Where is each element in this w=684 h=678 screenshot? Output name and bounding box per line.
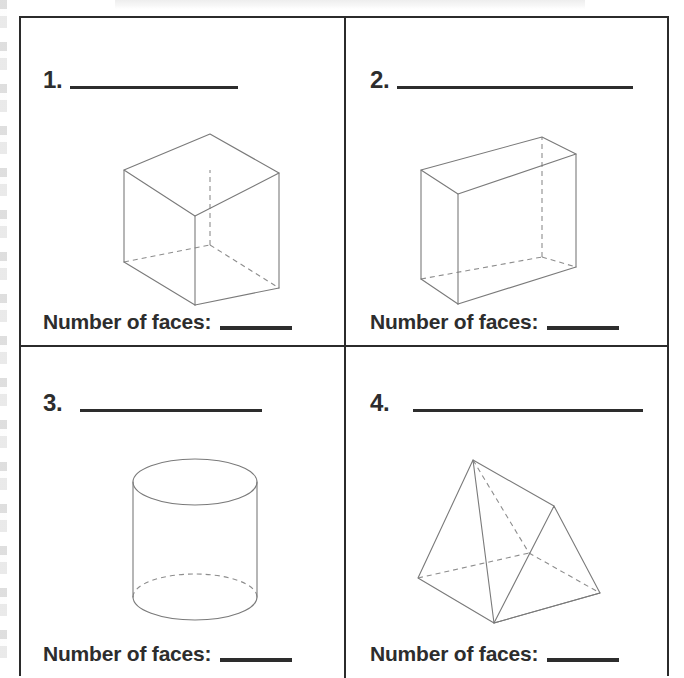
figure-rectangular-prism (404, 126, 614, 306)
question-4-number: 4. (370, 391, 389, 415)
figure-cylinder (117, 451, 297, 631)
question-cell-3: 3. (21, 347, 344, 678)
question-4-footer: Number of faces: (370, 643, 619, 664)
question-cell-1: 1. (21, 18, 344, 345)
scan-top-band-artifact (115, 0, 585, 9)
question-1-footer: Number of faces: (43, 311, 292, 332)
question-cell-2: 2. (344, 18, 667, 345)
question-4-faces-label: Number of faces: (370, 643, 538, 664)
question-4-faces-answer-line[interactable] (547, 658, 619, 662)
question-4-header: 4. (370, 391, 643, 415)
question-2-faces-answer-line[interactable] (547, 326, 619, 330)
question-2-header: 2. (370, 68, 633, 92)
question-4-answer-line[interactable] (413, 409, 643, 412)
question-2-footer: Number of faces: (370, 311, 619, 332)
question-1-header: 1. (43, 68, 238, 92)
cylinder-visible-edges (133, 459, 257, 620)
question-3-faces-answer-line[interactable] (220, 658, 292, 662)
question-1-answer-line[interactable] (70, 86, 238, 89)
question-3-number: 3. (43, 391, 62, 415)
question-1-faces-label: Number of faces: (43, 311, 211, 332)
question-1-number: 1. (43, 68, 62, 92)
rect-prism-hidden-edges (421, 137, 576, 279)
question-2-number: 2. (370, 68, 389, 92)
tri-prism-visible-edges (418, 460, 600, 623)
cylinder-hidden-back-arc (133, 574, 257, 597)
rect-prism-visible-edges (421, 137, 576, 304)
question-3-header: 3. (43, 391, 262, 415)
worksheet-grid: 1. (19, 16, 669, 676)
worksheet-row-top: 1. (21, 18, 667, 345)
question-2-answer-line[interactable] (397, 86, 633, 89)
scan-edge-artifact (0, 0, 7, 670)
question-cell-4: 4. (344, 347, 667, 678)
question-3-faces-label: Number of faces: (43, 643, 211, 664)
figure-triangular-prism (404, 445, 624, 635)
cube-visible-edges (124, 134, 279, 305)
question-3-footer: Number of faces: (43, 643, 292, 664)
question-1-faces-answer-line[interactable] (220, 326, 292, 330)
figure-cube (107, 128, 287, 308)
question-2-faces-label: Number of faces: (370, 311, 538, 332)
worksheet-row-bottom: 3. (21, 345, 667, 678)
question-3-answer-line[interactable] (80, 409, 262, 412)
cube-hidden-edges (124, 170, 279, 288)
